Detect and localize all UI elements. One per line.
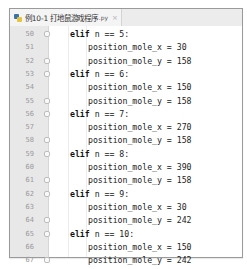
line-number: 59: [10, 147, 34, 161]
code-token: position_mole_y = 158: [88, 96, 192, 106]
code-text: elif n == 10:: [70, 227, 134, 241]
line-number: 63: [10, 200, 34, 214]
fold-marker-icon[interactable]: [44, 71, 50, 77]
code-text: position_mole_y = 158: [88, 133, 192, 147]
code-text: elif n == 7:: [70, 107, 129, 121]
code-text: elif n == 6:: [70, 67, 129, 81]
code-line[interactable]: 56elif n == 7:: [10, 107, 242, 121]
fold-marker-icon[interactable]: [44, 257, 50, 263]
code-text: position_mole_x = 30: [88, 200, 187, 214]
fold-marker-icon[interactable]: [44, 58, 50, 64]
fold-marker-icon[interactable]: [44, 111, 50, 117]
line-number: 52: [10, 54, 34, 68]
line-number: 50: [10, 27, 34, 41]
keyword: elif: [70, 229, 90, 239]
fold-marker-icon[interactable]: [44, 217, 50, 223]
line-number: 66: [10, 240, 34, 254]
tab-title: 例10-1 打地鼠游戏程序: [25, 12, 98, 23]
code-text: position_mole_y = 158: [88, 94, 192, 108]
code-text: position_mole_x = 30: [88, 40, 187, 54]
code-line[interactable]: 55position_mole_y = 158: [10, 94, 242, 108]
code-line[interactable]: 67position_mole_y = 242: [10, 253, 242, 267]
code-line[interactable]: 51position_mole_x = 30: [10, 40, 242, 54]
code-line[interactable]: 52position_mole_y = 158: [10, 54, 242, 68]
code-token: position_mole_y = 158: [88, 135, 192, 145]
code-token: n == 9:: [90, 189, 129, 199]
code-token: position_mole_x = 150: [88, 82, 192, 92]
code-token: n == 6:: [90, 69, 129, 79]
code-token: position_mole_y = 158: [88, 175, 192, 185]
code-token: position_mole_x = 30: [88, 42, 187, 52]
tab-bar: 例10-1 打地鼠游戏程序 .py ×: [10, 9, 242, 27]
line-number: 64: [10, 213, 34, 227]
line-number: 61: [10, 173, 34, 187]
code-text: elif n == 5:: [70, 27, 129, 41]
code-text: position_mole_y = 158: [88, 54, 192, 68]
fold-marker-icon[interactable]: [44, 98, 50, 104]
line-number: 54: [10, 80, 34, 94]
code-text: position_mole_x = 270: [88, 120, 192, 134]
keyword: elif: [70, 189, 90, 199]
code-token: n == 5:: [90, 29, 129, 39]
code-line[interactable]: 64position_mole_y = 242: [10, 213, 242, 227]
close-tab-icon[interactable]: ×: [112, 14, 118, 22]
keyword: elif: [70, 69, 90, 79]
code-token: position_mole_x = 30: [88, 202, 187, 212]
code-line[interactable]: 61position_mole_y = 158: [10, 173, 242, 187]
python-file-icon: [14, 14, 22, 22]
code-token: position_mole_x = 390: [88, 162, 192, 172]
line-number: 57: [10, 120, 34, 134]
line-number: 62: [10, 187, 34, 201]
code-text: elif n == 9:: [70, 187, 129, 201]
line-number: 53: [10, 67, 34, 81]
line-number: 65: [10, 227, 34, 241]
code-line[interactable]: 62elif n == 9:: [10, 187, 242, 201]
code-token: position_mole_y = 158: [88, 56, 192, 66]
code-token: n == 8:: [90, 149, 129, 159]
keyword: elif: [70, 109, 90, 119]
code-text: elif n == 8:: [70, 147, 129, 161]
fold-marker-icon[interactable]: [44, 137, 50, 143]
line-number: 51: [10, 40, 34, 54]
code-line[interactable]: 66position_mole_x = 150: [10, 240, 242, 254]
line-number: 55: [10, 94, 34, 108]
keyword: elif: [70, 149, 90, 159]
fold-marker-icon[interactable]: [44, 231, 50, 237]
code-line[interactable]: 59elif n == 8:: [10, 147, 242, 161]
code-text: position_mole_x = 390: [88, 160, 192, 174]
fold-marker-icon[interactable]: [44, 191, 50, 197]
fold-marker-icon[interactable]: [44, 177, 50, 183]
code-text: position_mole_x = 150: [88, 80, 192, 94]
code-text: position_mole_y = 242: [88, 213, 192, 227]
code-token: position_mole_x = 270: [88, 122, 192, 132]
code-token: n == 7:: [90, 109, 129, 119]
code-text: position_mole_y = 158: [88, 173, 192, 187]
line-number: 60: [10, 160, 34, 174]
code-token: position_mole_x = 150: [88, 242, 192, 252]
code-line[interactable]: 57position_mole_x = 270: [10, 120, 242, 134]
editor-window: 例10-1 打地鼠游戏程序 .py × 50elif n == 5:51posi…: [9, 8, 243, 258]
code-editor[interactable]: 50elif n == 5:51position_mole_x = 3052po…: [10, 26, 242, 257]
code-line[interactable]: 58position_mole_y = 158: [10, 133, 242, 147]
fold-marker-icon[interactable]: [44, 31, 50, 37]
keyword: elif: [70, 29, 90, 39]
line-number: 67: [10, 253, 34, 267]
code-text: position_mole_x = 150: [88, 240, 192, 254]
code-text: position_mole_y = 242: [88, 253, 192, 267]
code-token: n == 10:: [90, 229, 134, 239]
code-line[interactable]: 50elif n == 5:: [10, 27, 242, 41]
code-line[interactable]: 65elif n == 10:: [10, 227, 242, 241]
line-number: 58: [10, 133, 34, 147]
line-number: 56: [10, 107, 34, 121]
code-token: position_mole_y = 242: [88, 215, 192, 225]
file-tab[interactable]: 例10-1 打地鼠游戏程序 .py ×: [10, 9, 122, 26]
code-line[interactable]: 53elif n == 6:: [10, 67, 242, 81]
fold-marker-icon[interactable]: [44, 151, 50, 157]
code-line[interactable]: 63position_mole_x = 30: [10, 200, 242, 214]
tab-extension: .py: [99, 14, 108, 21]
code-token: position_mole_y = 242: [88, 255, 192, 265]
code-line[interactable]: 60position_mole_x = 390: [10, 160, 242, 174]
code-line[interactable]: 54position_mole_x = 150: [10, 80, 242, 94]
